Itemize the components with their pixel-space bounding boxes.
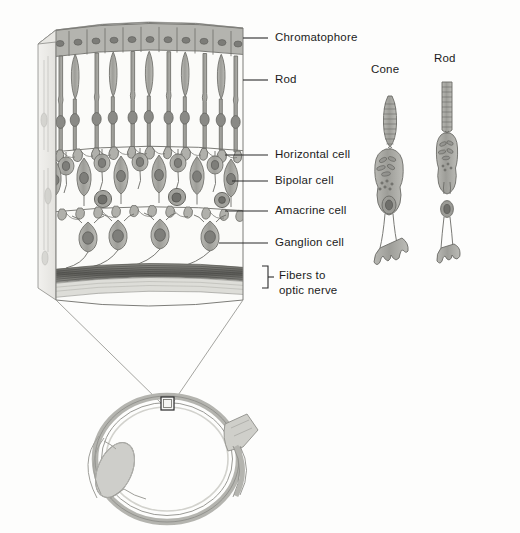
eye-diagram: [88, 396, 258, 522]
label-fibers-line1: Fibers to: [279, 269, 326, 282]
label-fibers-line2: optic nerve: [279, 284, 337, 297]
cone-cell: [374, 96, 408, 265]
label-ganglion-cell: Ganglion cell: [275, 236, 344, 249]
figure-canvas: [0, 0, 520, 533]
label-rod: Rod: [275, 73, 297, 86]
label-bipolar-cell: Bipolar cell: [275, 174, 334, 187]
label-horizontal-cell: Horizontal cell: [275, 148, 350, 161]
callout-line-left: [56, 300, 162, 404]
retina-block: [38, 22, 252, 306]
label-amacrine-cell: Amacrine cell: [275, 204, 347, 217]
callout-box: [161, 397, 174, 410]
retina-figure: Chromatophore Rod Horizontal cell Bipola…: [0, 0, 520, 533]
label-chromatophore: Chromatophore: [275, 31, 358, 44]
callout-lines: [56, 300, 243, 404]
rod-cell: [436, 82, 460, 263]
optic-nerve: [224, 414, 258, 451]
photoreceptor-panel: [374, 82, 460, 265]
label-rod-panel: Rod: [434, 52, 456, 65]
fibers-bracket: [262, 266, 274, 288]
callout-line-right: [172, 300, 243, 404]
label-cone: Cone: [371, 63, 399, 76]
